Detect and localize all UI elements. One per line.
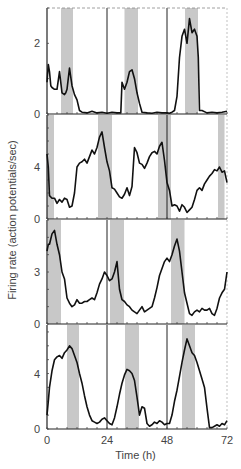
y-tick-label: 0 bbox=[34, 108, 40, 120]
y-tick-label: 0 bbox=[34, 318, 40, 330]
firing-rate-trace bbox=[47, 132, 227, 213]
firing-rate-chart: 020403040244872 bbox=[0, 0, 241, 469]
panel-3: 03 bbox=[34, 220, 227, 330]
x-tick-label: 72 bbox=[221, 434, 233, 446]
dark-period-band bbox=[125, 8, 139, 114]
dark-period-band bbox=[98, 115, 112, 219]
y-tick-label: 0 bbox=[34, 423, 40, 435]
dark-period-band bbox=[48, 220, 61, 324]
dark-period-band bbox=[182, 325, 195, 429]
y-axis-label: Firing rate (action potentials/sec) bbox=[2, 0, 22, 440]
y-tick-label: 3 bbox=[34, 266, 40, 278]
dark-period-band bbox=[67, 325, 79, 429]
firing-rate-trace bbox=[47, 230, 227, 315]
y-tick-label: 4 bbox=[34, 368, 40, 380]
y-axis-label-text: Firing rate (action potentials/sec) bbox=[6, 140, 18, 300]
y-tick-label: 2 bbox=[34, 37, 40, 49]
dark-period-band bbox=[61, 8, 73, 114]
x-tick-label: 48 bbox=[161, 434, 173, 446]
x-tick-label: 24 bbox=[101, 434, 113, 446]
y-tick-label: 0 bbox=[34, 213, 40, 225]
x-tick-label: 0 bbox=[44, 434, 50, 446]
y-tick-label: 4 bbox=[34, 161, 40, 173]
x-axis-label: Time (h) bbox=[0, 449, 241, 461]
panel-4: 04 bbox=[34, 325, 227, 435]
panel-1: 02 bbox=[34, 8, 227, 120]
panel-2: 04 bbox=[34, 115, 227, 225]
dark-period-band bbox=[110, 220, 124, 324]
dark-period-band bbox=[125, 325, 139, 429]
dark-period-band bbox=[185, 8, 198, 114]
